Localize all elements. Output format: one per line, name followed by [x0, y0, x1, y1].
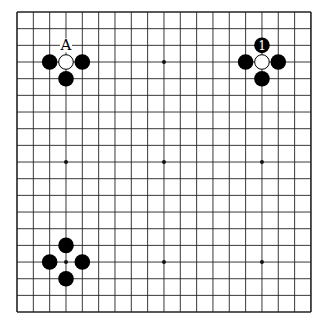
white-stone: [255, 55, 270, 70]
star-point: [162, 160, 166, 164]
black-stone: [75, 254, 91, 270]
white-stone: [59, 55, 74, 70]
black-stone: [75, 54, 91, 70]
black-stone: [58, 238, 74, 254]
star-point: [162, 260, 166, 264]
go-board: 1 A: [0, 0, 324, 327]
black-stone: [58, 271, 74, 287]
black-stone: 1: [254, 38, 270, 54]
star-point: [162, 60, 166, 64]
star-point: [260, 160, 264, 164]
star-point: [260, 260, 264, 264]
black-stone: [42, 54, 58, 70]
board-label: A: [60, 36, 72, 54]
black-stone: [254, 71, 270, 87]
black-stone: [42, 254, 58, 270]
star-point: [64, 260, 68, 264]
black-stone: [238, 54, 254, 70]
star-point: [64, 160, 68, 164]
black-stone: [58, 71, 74, 87]
move-number: 1: [258, 39, 266, 53]
labels-layer: A: [60, 36, 72, 54]
black-stone: [270, 54, 286, 70]
